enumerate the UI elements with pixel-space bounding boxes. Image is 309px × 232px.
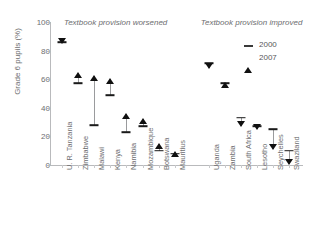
legend-label-2000: 2000 [259, 40, 277, 49]
y-tick-label: 20 [10, 132, 50, 141]
x-tick-mark [126, 165, 127, 168]
y-tick-mark [47, 51, 50, 52]
data-point-2000 [122, 131, 131, 133]
x-tick-label: Kenya [113, 149, 122, 170]
y-axis-line [50, 22, 51, 165]
y-tick-label: 40 [10, 103, 50, 112]
x-tick-label: South Africa [244, 130, 253, 170]
x-tick-label: U. R. Tanzania [65, 122, 74, 170]
triangle-icon [244, 58, 252, 67]
legend-label-2007: 2007 [259, 53, 277, 62]
data-point-2007 [253, 124, 261, 130]
x-tick-label: Mozambique [146, 128, 155, 170]
data-point-2000 [90, 124, 99, 126]
x-tick-mark [78, 165, 79, 168]
x-tick-mark [175, 165, 176, 168]
y-tick-mark [47, 136, 50, 137]
y-tick-mark [47, 79, 50, 80]
x-tick-mark [225, 165, 226, 168]
data-point-2000 [237, 117, 246, 119]
group-title: Textbook provision worsened [64, 18, 167, 27]
group-title: Textbook provision improved [201, 18, 303, 27]
data-point-2007 [122, 113, 130, 119]
data-point-2000 [106, 94, 115, 96]
x-tick-label: Lesotho [260, 144, 269, 170]
x-tick-label: Zimbabwe [81, 136, 90, 170]
data-point-2007 [74, 72, 82, 78]
x-tick-mark [257, 165, 258, 168]
x-tick-label: Uganda [212, 144, 221, 170]
x-tick-mark [143, 165, 144, 168]
connector-line [94, 76, 95, 125]
y-tick-label: 100 [10, 18, 50, 27]
x-tick-label: Mauritius [178, 140, 187, 170]
x-tick-label: Namibia [129, 143, 138, 170]
data-point-2007 [237, 121, 245, 127]
data-point-2007 [58, 38, 66, 44]
y-tick-mark [47, 108, 50, 109]
x-tick-mark [209, 165, 210, 168]
x-tick-mark [241, 165, 242, 168]
y-tick-mark [47, 22, 50, 23]
x-tick-label: Malawi [97, 147, 106, 170]
data-point-2007 [221, 82, 229, 88]
x-tick-mark [289, 165, 290, 168]
data-point-2000 [74, 83, 83, 85]
x-tick-mark [94, 165, 95, 168]
data-point-2007 [106, 78, 114, 84]
data-point-2007 [90, 75, 98, 81]
x-tick-mark [110, 165, 111, 168]
x-tick-label: Zambia [228, 145, 237, 170]
y-tick-label: 0 [10, 161, 50, 170]
data-point-2007 [205, 63, 213, 69]
x-tick-label: Botswana [162, 138, 171, 170]
x-tick-label: Swaziland [292, 136, 301, 170]
dash-icon [244, 45, 253, 47]
x-tick-mark [159, 165, 160, 168]
x-tick-mark [273, 165, 274, 168]
y-tick-mark [47, 165, 50, 166]
chart-container: Grade 6 pupils (%) 020406080100 U. R. Ta… [0, 0, 309, 232]
y-tick-label: 80 [10, 46, 50, 55]
y-tick-label: 60 [10, 75, 50, 84]
data-point-2007 [139, 118, 147, 124]
x-tick-label: Seychelles [276, 134, 285, 170]
data-point-2000 [269, 128, 278, 130]
x-tick-mark [62, 165, 63, 168]
